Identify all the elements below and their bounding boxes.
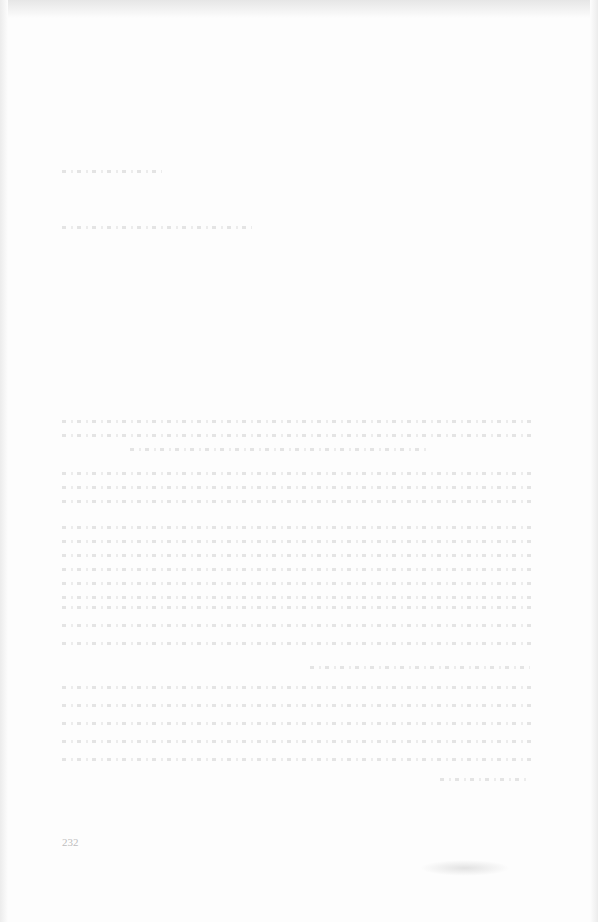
faded-text-line <box>62 686 532 689</box>
scan-edge-right <box>590 0 598 922</box>
scan-smudge <box>420 860 510 876</box>
faded-text-line <box>62 642 532 645</box>
faded-text-line <box>62 434 532 437</box>
faded-text-line <box>62 582 532 585</box>
faded-text-line <box>62 526 532 529</box>
faded-text-line <box>62 624 532 627</box>
faded-text-line <box>440 778 530 781</box>
scan-edge-top <box>0 0 598 18</box>
faded-subheading-line <box>62 226 252 229</box>
faded-heading-line <box>62 170 162 173</box>
page-number: 232 <box>62 836 79 848</box>
faded-text-line <box>130 448 430 451</box>
faded-text-line <box>62 704 532 707</box>
faded-text-line <box>62 500 532 503</box>
faded-text-line <box>62 540 532 543</box>
faded-text-line <box>62 606 532 609</box>
faded-text-line <box>62 420 532 423</box>
faded-text-line <box>62 568 532 571</box>
faded-text-line <box>62 758 532 761</box>
faded-text-line <box>62 554 532 557</box>
faded-text-line <box>62 596 532 599</box>
faded-text-line <box>62 472 532 475</box>
faded-text-line <box>310 666 530 669</box>
faded-text-line <box>62 486 532 489</box>
faded-text-line <box>62 722 532 725</box>
faded-text-line <box>62 740 532 743</box>
scan-edge-left <box>0 0 8 922</box>
